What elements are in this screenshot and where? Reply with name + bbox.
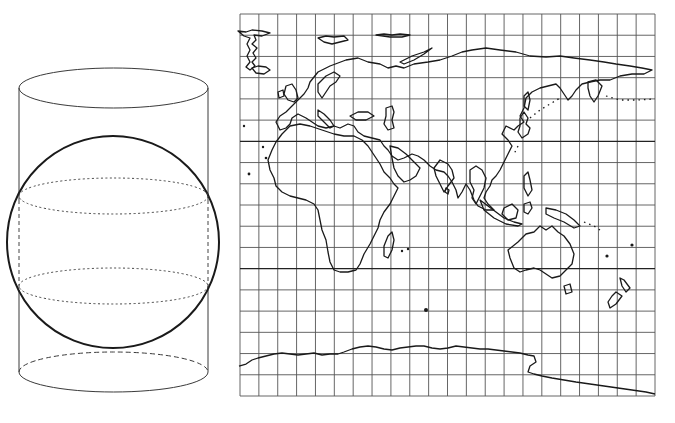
world-map xyxy=(238,14,655,396)
coast-svalbard xyxy=(318,36,348,44)
coast-australia xyxy=(508,226,574,278)
island-azores xyxy=(243,125,245,127)
coast-ireland xyxy=(278,90,284,98)
cylinder-sphere-diagram xyxy=(7,68,219,392)
coast-new-zealand-south xyxy=(608,292,622,308)
island-vanuatu xyxy=(605,254,608,257)
coast-new-guinea xyxy=(546,208,580,228)
island-fiji xyxy=(630,243,633,246)
coastlines xyxy=(238,30,655,394)
island-kerguelen xyxy=(424,308,428,312)
coast-caspian xyxy=(384,106,394,130)
cylinder-bottom-front xyxy=(19,372,208,392)
coast-sulawesi xyxy=(524,202,532,214)
coast-italy xyxy=(318,110,334,128)
graticule xyxy=(240,14,655,396)
coast-sri-lanka xyxy=(445,188,449,194)
standard-parallel-north xyxy=(19,178,208,214)
coast-iceland xyxy=(252,66,270,74)
cylinder-bottom-back xyxy=(19,352,208,372)
island-cape-verde xyxy=(248,173,251,176)
coast-greenland xyxy=(238,30,270,70)
island-chain-ryukyu xyxy=(514,146,518,154)
standard-parallel-south xyxy=(19,268,208,304)
coast-africa xyxy=(268,124,398,272)
cylinder-top-ellipse xyxy=(19,68,208,108)
island-canaries xyxy=(265,157,268,160)
coast-sumatra-java xyxy=(480,200,522,226)
coast-india xyxy=(434,160,454,192)
coast-scandinavia xyxy=(318,72,340,98)
island-mascarene xyxy=(401,250,403,252)
projection-figure xyxy=(0,0,675,423)
island-chain-aleutian xyxy=(606,96,655,100)
sphere-outline xyxy=(7,136,219,348)
coast-arabia xyxy=(390,146,420,182)
island-madeira xyxy=(262,146,264,148)
coast-madagascar xyxy=(384,232,394,258)
island-chain-kuril xyxy=(530,98,560,118)
island-mascarene-2 xyxy=(407,248,409,250)
coast-tasmania xyxy=(564,284,572,294)
